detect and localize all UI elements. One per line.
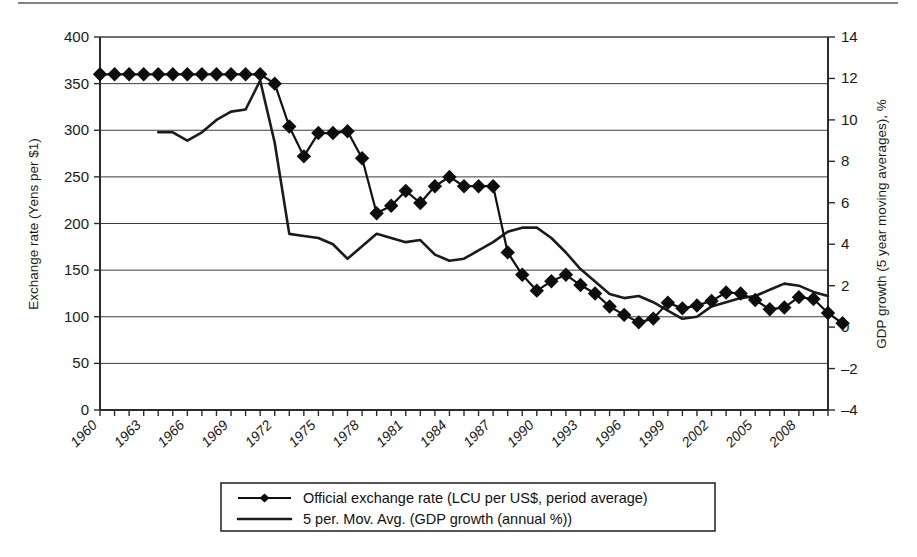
y-axis-ticks: 050100150200250300350400 [64,28,100,418]
x-tick-label: 1972 [241,417,274,450]
x-tick-label: 1978 [329,417,362,450]
data-point-marker [457,179,471,193]
data-point-marker [326,126,340,140]
data-point-marker [209,67,223,81]
data-point-marker [93,67,107,81]
x-tick-label: 1987 [460,416,494,450]
y2-axis-ticks: –4–202468101214 [828,28,858,418]
data-point-marker [442,170,456,184]
data-point-marker [238,67,252,81]
x-tick-label: 1984 [416,417,449,450]
y-tick-label: 50 [72,354,89,371]
y-axis-title: Exchange rate (Yens per $1) [26,138,41,309]
x-tick-label: 1975 [285,417,318,450]
data-point-marker [719,285,733,299]
x-tick-label: 2008 [765,417,799,451]
y2-tick-label: 14 [841,28,858,45]
y2-tick-label: 6 [841,194,849,211]
x-tick-label: 1966 [154,417,187,450]
data-point-marker [369,206,383,220]
data-point-marker [224,67,238,81]
y2-tick-label: 10 [841,111,858,128]
x-tick-label: 1999 [635,417,668,450]
data-point-marker [544,274,558,288]
data-point-marker [253,67,267,81]
y-tick-label: 100 [64,308,89,325]
data-point-marker [471,179,485,193]
data-point-marker [180,67,194,81]
data-point-marker [340,124,354,138]
data-point-marker [166,67,180,81]
series-exchange-rate-markers [93,67,850,330]
data-point-marker [486,179,500,193]
x-tick-label: 2002 [678,417,712,451]
x-tick-label: 2005 [721,417,755,451]
data-point-marker [675,301,689,315]
y-tick-label: 250 [64,168,89,185]
x-tick-label: 1996 [591,417,624,450]
y-tick-label: 200 [64,215,89,232]
data-point-marker [282,119,296,133]
y-tick-label: 0 [81,401,89,418]
y-tick-label: 400 [64,28,89,45]
x-tick-label: 1990 [504,417,537,450]
data-point-marker [195,67,209,81]
data-point-marker [151,67,165,81]
x-tick-label: 1963 [110,417,143,450]
data-point-marker [311,126,325,140]
y-tick-label: 350 [64,75,89,92]
gridlines-group [100,37,828,363]
data-point-marker [763,302,777,316]
x-tick-label: 1993 [547,417,580,450]
data-point-marker [573,278,587,292]
legend-marker-diamond-icon [260,494,270,503]
x-tick-label: 1981 [373,417,406,450]
data-point-marker [777,300,791,314]
x-tick-label: 1969 [198,417,231,450]
y2-tick-label: 4 [841,235,849,252]
y2-tick-label: 2 [841,277,849,294]
legend-label-exchange-rate: Official exchange rate (LCU per US$, per… [303,490,648,506]
series-gdp-growth-line [158,81,828,319]
y2-tick-label: –4 [841,401,858,418]
y2-tick-label: –2 [841,360,858,377]
x-tick-label: 1960 [67,417,100,450]
chart-legend: Official exchange rate (LCU per US$, per… [221,483,715,531]
y2-tick-label: 12 [841,69,858,86]
y-tick-label: 300 [64,121,89,138]
y2-tick-label: 8 [841,152,849,169]
data-point-marker [355,151,369,165]
series-exchange-rate-line [100,74,843,323]
data-point-marker [690,298,704,312]
chart-container: 050100150200250300350400 –4–202468101214… [0,0,917,557]
x-axis-ticks: 1960196319661969197219751978198119841987… [67,410,828,451]
data-point-marker [792,290,806,304]
data-point-marker [268,76,282,90]
legend-label-gdp-growth: 5 per. Mov. Avg. (GDP growth (annual %)) [303,511,572,527]
chart-svg: 050100150200250300350400 –4–202468101214… [0,0,917,557]
y2-axis-title: GDP growth (5 year moving averages), % [874,99,889,349]
data-point-marker [122,67,136,81]
data-point-marker [500,245,514,259]
data-point-marker [617,308,631,322]
data-point-marker [136,67,150,81]
data-point-marker [297,149,311,163]
data-point-marker [632,315,646,329]
data-point-marker [107,67,121,81]
y-tick-label: 150 [64,261,89,278]
